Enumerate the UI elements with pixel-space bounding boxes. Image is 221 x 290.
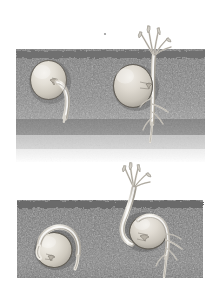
- seedling-stage-3: [26, 210, 106, 282]
- lower-germination-panel: [0, 160, 221, 290]
- seedling-stage-4: [104, 160, 208, 284]
- seedling-stage-2: [106, 12, 198, 144]
- cotyledon-leaves: [138, 26, 171, 56]
- germination-figure: Bean seed germination sequence Upper pan…: [0, 0, 221, 290]
- cotyledon-leaves: [122, 163, 151, 188]
- seedling-stage-1: [28, 56, 92, 128]
- stray-ink-speck: [102, 31, 108, 37]
- upper-germination-panel: [0, 0, 221, 165]
